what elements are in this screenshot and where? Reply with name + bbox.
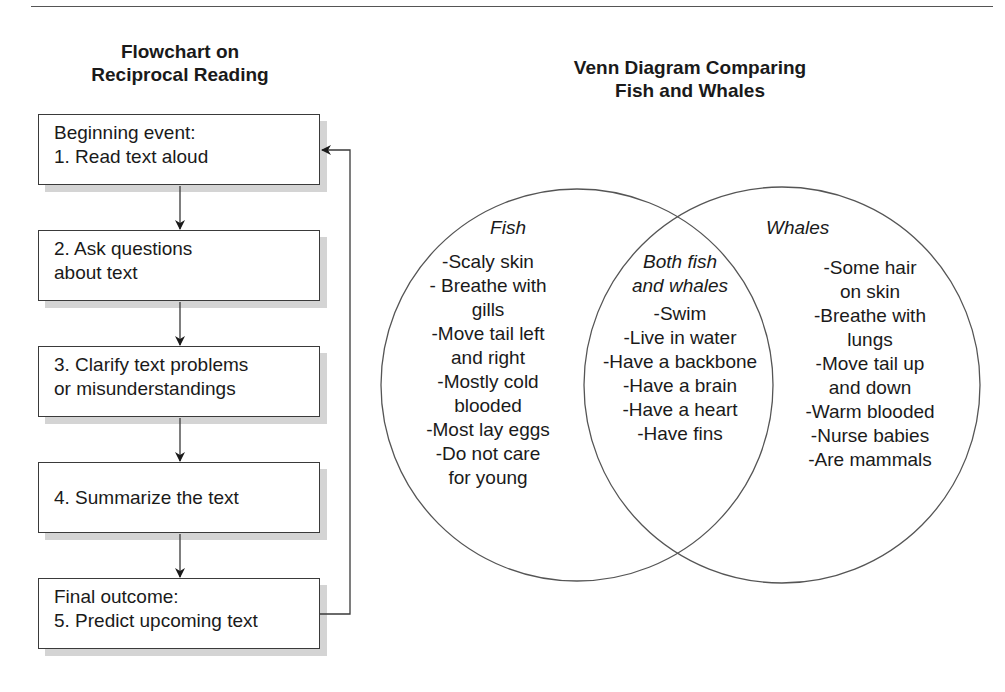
fish-item: -Mostly cold xyxy=(388,370,588,394)
flow-step-5: Final outcome: 5. Predict upcoming text xyxy=(38,578,320,649)
venn-title-line2: Fish and Whales xyxy=(500,79,880,102)
whales-item: lungs xyxy=(770,328,970,352)
both-item: -Have a backbone xyxy=(590,350,770,374)
whales-item: -Are mammals xyxy=(770,448,970,472)
flow-step-2-line1: 2. Ask questions xyxy=(54,237,319,261)
both-label-line1: Both fish xyxy=(590,250,770,274)
fish-item: -Most lay eggs xyxy=(388,418,588,442)
flow-step-1: Beginning event: 1. Read text aloud xyxy=(38,114,320,185)
whales-only-list: -Some hair on skin -Breathe with lungs -… xyxy=(770,256,970,472)
whales-item: on skin xyxy=(770,280,970,304)
flowchart-title: Flowchart on Reciprocal Reading xyxy=(40,40,320,86)
fish-item: -Scaly skin xyxy=(388,250,588,274)
whales-item: -Move tail up xyxy=(770,352,970,376)
fish-item: and right xyxy=(388,346,588,370)
fish-item: for young xyxy=(388,466,588,490)
flow-step-4: 4. Summarize the text xyxy=(38,462,320,533)
whales-item: -Nurse babies xyxy=(770,424,970,448)
flowchart-title-line1: Flowchart on xyxy=(40,40,320,63)
flow-step-2-line2: about text xyxy=(54,261,319,285)
whales-item: -Warm blooded xyxy=(770,400,970,424)
whales-item: -Some hair xyxy=(770,256,970,280)
both-label-line2: and whales xyxy=(590,274,770,298)
whales-label-wrap: Whales xyxy=(762,216,862,240)
fish-item: -Move tail left xyxy=(388,322,588,346)
flow-step-2: 2. Ask questions about text xyxy=(38,230,320,301)
top-rule-divider xyxy=(31,6,993,7)
both-item: -Live in water xyxy=(590,326,770,350)
flow-step-1-line1: Beginning event: xyxy=(54,121,319,145)
flow-step-5-line2: 5. Predict upcoming text xyxy=(54,609,319,633)
flow-feedback-arrow xyxy=(320,150,350,614)
fish-item: -Do not care xyxy=(388,442,588,466)
flow-step-3-line1: 3. Clarify text problems xyxy=(54,353,319,377)
venn-title-line1: Venn Diagram Comparing xyxy=(500,56,880,79)
both-item: -Have fins xyxy=(590,422,770,446)
whales-label: Whales xyxy=(762,216,862,240)
fish-label: Fish xyxy=(434,216,526,240)
flow-step-4-line1: 4. Summarize the text xyxy=(54,486,239,510)
fish-item: gills xyxy=(388,298,588,322)
flow-step-1-line2: 1. Read text aloud xyxy=(54,145,319,169)
flow-step-3: 3. Clarify text problems or misunderstan… xyxy=(38,346,320,417)
whales-item: -Breathe with xyxy=(770,304,970,328)
venn-title: Venn Diagram Comparing Fish and Whales xyxy=(500,56,880,102)
both-list: Both fish and whales -Swim -Live in wate… xyxy=(590,250,770,446)
fish-item: blooded xyxy=(388,394,588,418)
both-item: -Have a brain xyxy=(590,374,770,398)
fish-item: - Breathe with xyxy=(388,274,588,298)
both-item: -Have a heart xyxy=(590,398,770,422)
flowchart-title-line2: Reciprocal Reading xyxy=(40,63,320,86)
flow-step-3-line2: or misunderstandings xyxy=(54,377,319,401)
whales-item: and down xyxy=(770,376,970,400)
both-item: -Swim xyxy=(590,302,770,326)
fish-only-list: -Scaly skin - Breathe with gills -Move t… xyxy=(388,250,588,490)
flow-step-5-line1: Final outcome: xyxy=(54,585,319,609)
fish-label-wrap: Fish xyxy=(434,216,526,240)
